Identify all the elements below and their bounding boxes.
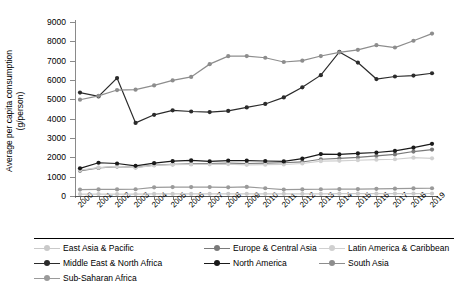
series-marker [189,75,193,79]
legend-item[interactable]: Sub-Saharan Africa [34,273,137,283]
legend-row: East Asia & PacificEurope & Central Asia… [34,243,454,258]
series-marker [393,45,397,49]
legend-label: East Asia & Pacific [63,243,134,253]
series-marker [171,78,175,82]
series-marker [263,102,267,106]
series-marker [78,188,82,192]
legend-label: Europe & Central Asia [233,243,317,253]
legend-item[interactable]: South Asia [319,258,389,268]
series-marker [171,192,175,196]
series-marker [263,56,267,60]
series-marker [356,61,360,65]
series-marker [411,39,415,43]
series-marker [374,192,378,196]
series-marker [245,54,249,58]
series-marker [263,186,267,190]
series-marker [356,158,360,162]
series-east-asia-pacific [78,191,434,196]
series-marker [78,90,82,94]
series-marker [96,165,100,169]
series-marker [226,159,230,163]
legend-marker-icon [204,244,230,253]
series-marker [356,151,360,155]
series-line [80,193,432,194]
series-marker [411,186,415,190]
series-marker [411,73,415,77]
series-marker [208,110,212,114]
series-marker [430,31,434,35]
series-marker [245,105,249,109]
series-marker [171,108,175,112]
series-marker [208,62,212,66]
series-marker [300,157,304,161]
series-marker [337,152,341,156]
chart-legend: East Asia & PacificEurope & Central Asia… [34,238,454,292]
series-marker [133,192,137,196]
legend-label: Sub-Saharan Africa [63,273,137,283]
series-marker [152,192,156,196]
series-marker [374,150,378,154]
series-line [80,187,432,190]
series-marker [263,192,267,196]
series-marker [337,50,341,54]
series-marker [226,185,230,189]
series-marker [152,161,156,165]
series-marker [430,156,434,160]
legend-marker-icon [34,274,60,283]
series-marker [282,159,286,163]
series-marker [319,187,323,191]
series-marker [356,192,360,196]
series-marker [319,54,323,58]
series-marker [115,76,119,80]
series-marker [393,74,397,78]
legend-row: Middle East & North AfricaNorth AmericaS… [34,258,454,273]
series-sub-saharan-africa [78,185,434,192]
series-marker [319,192,323,196]
legend-marker-icon [319,244,345,253]
series-marker [282,95,286,99]
legend-item[interactable]: Middle East & North Africa [34,258,162,268]
legend-marker-icon [34,244,60,253]
series-marker [171,185,175,189]
legend-item[interactable]: East Asia & Pacific [34,243,134,253]
series-marker [337,159,341,163]
series-marker [96,192,100,196]
legend-item[interactable]: North America [204,258,287,268]
series-marker [430,191,434,195]
series-marker [430,186,434,190]
series-marker [96,161,100,165]
series-marker [393,157,397,161]
series-marker [208,192,212,196]
series-marker [282,192,286,196]
series-marker [226,192,230,196]
series-marker [393,191,397,195]
legend-item[interactable]: Europe & Central Asia [204,243,317,253]
series-marker [152,185,156,189]
legend-marker-icon [34,259,60,268]
series-marker [356,187,360,191]
series-marker [263,159,267,163]
series-marker [300,192,304,196]
series-marker [374,187,378,191]
series-marker [282,60,286,64]
series-marker [115,192,119,196]
legend-item[interactable]: Latin America & Caribbean [319,243,449,253]
series-marker [393,149,397,153]
series-marker [393,187,397,191]
series-marker [226,54,230,58]
series-marker [171,159,175,163]
series-marker [189,162,193,166]
series-marker [189,158,193,162]
series-marker [430,148,434,152]
series-marker [189,192,193,196]
series-middle-east-north-africa [78,50,434,125]
series-marker [245,163,249,167]
series-marker [78,166,82,170]
series-marker [226,109,230,113]
series-marker [78,192,82,196]
series-marker [208,159,212,163]
series-marker [245,159,249,163]
series-marker [245,192,249,196]
series-marker [337,187,341,191]
series-line [80,34,432,100]
